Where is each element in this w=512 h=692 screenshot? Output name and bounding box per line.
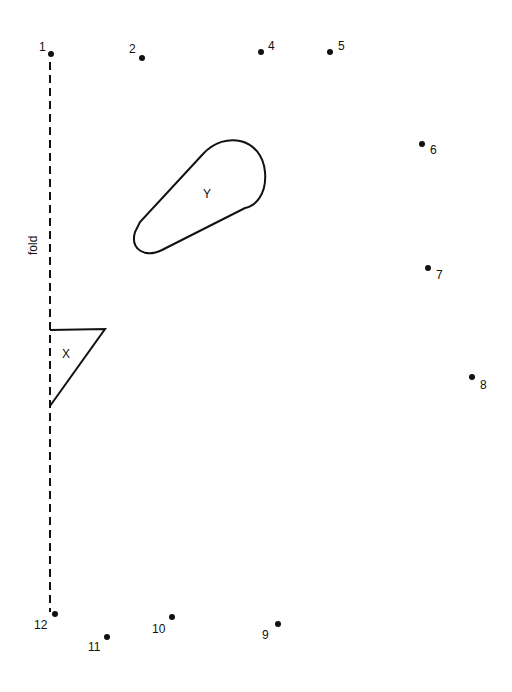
fold-label: fold: [26, 236, 40, 255]
point-4-label: 4: [268, 40, 275, 52]
shape-y-label: Y: [203, 187, 211, 201]
point-4-dot: [258, 49, 264, 55]
point-1-dot: [48, 51, 54, 57]
point-8-label: 8: [480, 379, 487, 391]
point-11-dot: [104, 634, 110, 640]
point-6-dot: [419, 141, 425, 147]
point-10-label: 10: [152, 623, 165, 635]
point-6-label: 6: [430, 144, 437, 156]
shape-x-outline: [50, 329, 105, 406]
point-2-dot: [139, 55, 145, 61]
point-7-label: 7: [436, 269, 443, 281]
point-7-dot: [425, 265, 431, 271]
point-8-dot: [469, 374, 475, 380]
point-11-label: 11: [88, 641, 100, 653]
point-5-label: 5: [338, 40, 345, 52]
point-1-label: 1: [39, 41, 46, 53]
point-2-label: 2: [129, 43, 136, 55]
point-12-dot: [52, 611, 58, 617]
point-12-label: 12: [34, 619, 47, 631]
point-9-dot: [275, 621, 281, 627]
point-9-label: 9: [262, 629, 269, 641]
shape-x-label: X: [62, 347, 70, 361]
point-5-dot: [327, 49, 333, 55]
diagram-canvas: [0, 0, 512, 692]
point-10-dot: [169, 614, 175, 620]
shape-y-outline: [134, 140, 265, 253]
